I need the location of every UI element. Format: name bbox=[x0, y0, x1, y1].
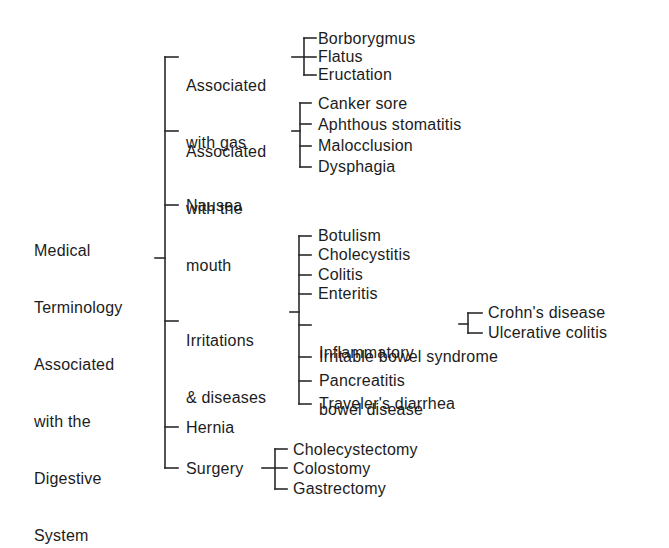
leaf-colitis: Colitis bbox=[318, 265, 363, 284]
branch-label-line: Irritations bbox=[186, 331, 266, 350]
root-line: Digestive bbox=[34, 469, 122, 488]
leaf-aphthous-stomatitis: Aphthous stomatitis bbox=[318, 115, 461, 134]
leaf-enteritis: Enteritis bbox=[318, 284, 378, 303]
leaf-colostomy: Colostomy bbox=[293, 459, 370, 478]
leaf-flatus: Flatus bbox=[318, 47, 363, 66]
root-line: System bbox=[34, 526, 122, 545]
branch-hernia: Hernia bbox=[186, 418, 234, 437]
root-line: Medical bbox=[34, 241, 122, 260]
root-line: Terminology bbox=[34, 298, 122, 317]
branch-label-line: Associated bbox=[186, 76, 266, 95]
leaf-botulism: Botulism bbox=[318, 226, 381, 245]
root-line: Associated bbox=[34, 355, 122, 374]
leaf-cholecystectomy: Cholecystectomy bbox=[293, 440, 418, 459]
leaf-eructation: Eructation bbox=[318, 65, 392, 84]
branch-surgery: Surgery bbox=[186, 459, 243, 478]
root-line: with the bbox=[34, 412, 122, 431]
leaf-dysphagia: Dysphagia bbox=[318, 157, 395, 176]
branch-label-line: Associated bbox=[186, 142, 266, 161]
leaf-borborygmus: Borborygmus bbox=[318, 29, 415, 48]
branch-nausea: Nausea bbox=[186, 196, 242, 215]
leaf-cholecystitis: Cholecystitis bbox=[318, 245, 410, 264]
leaf-malocclusion: Malocclusion bbox=[318, 136, 413, 155]
branch-label-line: mouth bbox=[186, 256, 266, 275]
root-node: Medical Terminology Associated with the … bbox=[34, 203, 122, 548]
leaf-ulcerative-colitis: Ulcerative colitis bbox=[488, 323, 607, 342]
branch-label-line: & diseases bbox=[186, 388, 266, 407]
leaf-travelers-diarrhea: Traveler's diarrhea bbox=[319, 394, 455, 413]
leaf-pancreatitis: Pancreatitis bbox=[319, 371, 405, 390]
leaf-gastrectomy: Gastrectomy bbox=[293, 479, 386, 498]
leaf-canker-sore: Canker sore bbox=[318, 94, 407, 113]
leaf-crohns-disease: Crohn's disease bbox=[488, 303, 605, 322]
leaf-irritable-bowel-syndrome: Irritable bowel syndrome bbox=[319, 347, 498, 366]
